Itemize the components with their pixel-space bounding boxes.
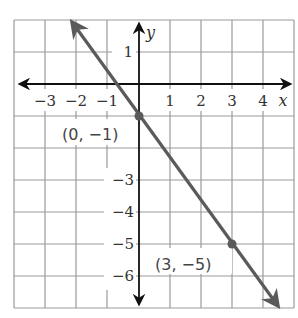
point-label-3-neg5: (3, −5) (155, 255, 211, 274)
x-tick-4: 4 (258, 92, 268, 110)
y-tick-1: 1 (123, 43, 133, 61)
point-label-0-neg1: (0, −1) (62, 125, 118, 144)
point-3-neg5 (228, 240, 237, 249)
x-tick-3: 3 (227, 92, 237, 110)
y-tick-m3: −3 (112, 171, 134, 189)
x-tick-m2: −2 (65, 92, 87, 110)
y-tick-m6: −6 (112, 267, 134, 285)
y-tick-m4: −4 (112, 203, 134, 221)
x-tick-m3: −3 (34, 92, 56, 110)
x-tick-1: 1 (165, 92, 175, 110)
x-tick-2: 2 (196, 92, 206, 110)
y-axis-label: y (145, 23, 156, 42)
x-tick-m1: −1 (96, 92, 118, 110)
point-0-neg1 (135, 112, 144, 121)
x-axis-label: x (278, 91, 287, 110)
y-tick-m5: −5 (112, 235, 134, 253)
coordinate-plane: −3 −2 −1 1 2 3 4 x 1 −3 −4 −5 −6 y (0, −… (0, 0, 298, 318)
